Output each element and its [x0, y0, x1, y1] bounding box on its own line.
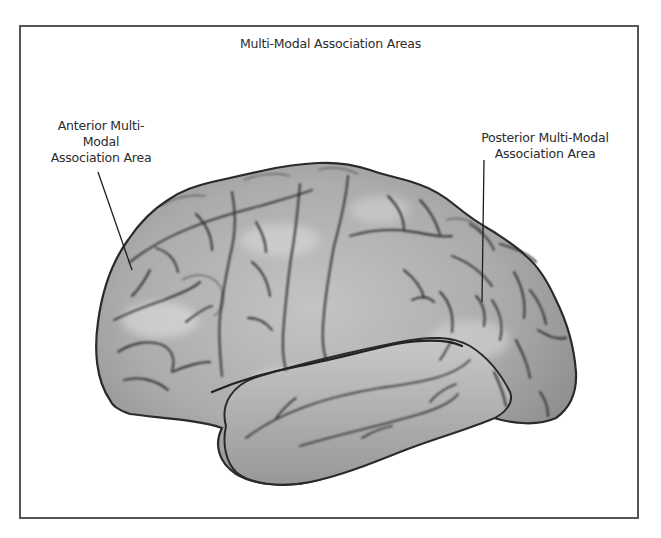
brain-illustration [0, 0, 661, 538]
leader-line-anterior [98, 172, 132, 270]
